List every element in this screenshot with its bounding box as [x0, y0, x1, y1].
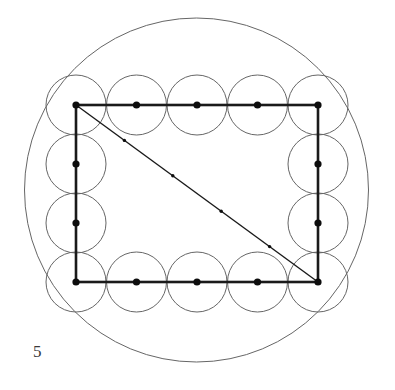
point-top-edge-2 — [193, 101, 200, 108]
point-bottom-left-corner — [72, 278, 79, 285]
point-bottom-edge-1 — [133, 278, 140, 285]
point-bottom-edge-2 — [193, 278, 200, 285]
point-right-edge-2 — [314, 219, 321, 226]
point-top-edge-3 — [254, 101, 261, 108]
diagonal-point-3 — [220, 210, 223, 213]
point-top-left-corner — [72, 101, 79, 108]
diagonal-group — [76, 105, 318, 282]
point-top-edge-1 — [133, 101, 140, 108]
geometry-diagram — [0, 0, 395, 390]
figure-container: 5 — [0, 0, 395, 390]
point-left-edge-2 — [72, 219, 79, 226]
point-top-right-corner — [314, 101, 321, 108]
figure-caption: 5 — [33, 343, 42, 360]
point-right-edge-1 — [314, 160, 321, 167]
point-bottom-right-corner — [314, 278, 321, 285]
diagonal-point-1 — [123, 139, 126, 142]
point-bottom-edge-3 — [254, 278, 261, 285]
diagonal-point-4 — [268, 245, 271, 248]
diagonal-point-2 — [171, 174, 174, 177]
point-left-edge-1 — [72, 160, 79, 167]
rectangle-diagonal — [76, 105, 318, 282]
